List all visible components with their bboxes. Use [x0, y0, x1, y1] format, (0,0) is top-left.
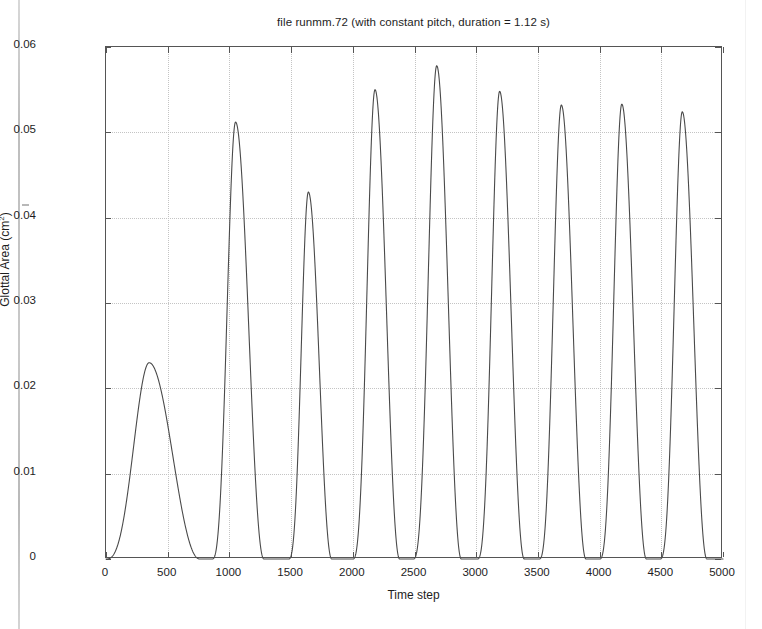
x-tick-label: 2000 — [317, 566, 387, 578]
chart-figure: file runmm.72 (with constant pitch, dura… — [0, 0, 762, 629]
x-tick-label: 1500 — [255, 566, 325, 578]
y-tick-label: 0.05 — [14, 123, 36, 135]
x-tick-label: 0 — [70, 566, 140, 578]
x-tick-label: 3500 — [502, 566, 572, 578]
plot-area — [105, 46, 722, 558]
waveform-line — [106, 66, 723, 559]
y-tick-label: 0.06 — [14, 38, 36, 50]
x-tick-label: 5000 — [687, 566, 757, 578]
y-tick-label: 0.01 — [14, 465, 36, 477]
y-axis-title-close: ) — [0, 212, 12, 216]
x-tick-label: 4500 — [625, 566, 695, 578]
axis-tick-mark — [723, 47, 724, 53]
y-tick-label: 0.03 — [14, 294, 36, 306]
y-axis-title-text: Glottal Area (cm — [0, 221, 12, 307]
x-tick-label: 1000 — [193, 566, 263, 578]
chart-title: file runmm.72 (with constant pitch, dura… — [105, 16, 722, 28]
y-axis-title: Glottal Area (cm2) — [0, 50, 12, 470]
y-tick-label: 0.04 — [14, 209, 36, 221]
y-tick-label: 0 — [30, 550, 36, 562]
y-tick-label: 0.02 — [14, 379, 36, 391]
glottal-area-waveform — [106, 47, 723, 559]
y-axis-title-superscript: 2 — [0, 216, 6, 220]
x-tick-label: 2500 — [379, 566, 449, 578]
x-axis-title: Time step — [105, 588, 722, 602]
x-tick-label: 500 — [132, 566, 202, 578]
x-tick-label: 3000 — [440, 566, 510, 578]
axis-tick-mark — [723, 552, 724, 557]
x-tick-label: 4000 — [564, 566, 634, 578]
